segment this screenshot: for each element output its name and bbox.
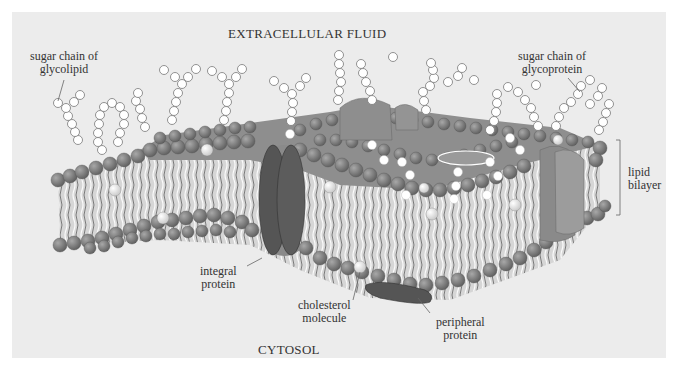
label-glycolipid-sugar-chain: sugar chain of glycolipid (30, 50, 98, 76)
label-integral-protein: integral protein (200, 265, 237, 291)
region-label-cytosol: CYTOSOL (258, 342, 320, 358)
integral-protein-shape (259, 145, 305, 256)
region-label-extracellular: EXTRACELLULAR FLUID (228, 26, 386, 42)
label-peripheral-protein: peripheral protein (436, 316, 485, 342)
label-lipid-bilayer: lipid bilayer (628, 166, 661, 192)
label-cholesterol-molecule: cholesterol molecule (298, 299, 351, 325)
label-glycoprotein-sugar-chain: sugar chain of glycoprotein (518, 50, 586, 76)
